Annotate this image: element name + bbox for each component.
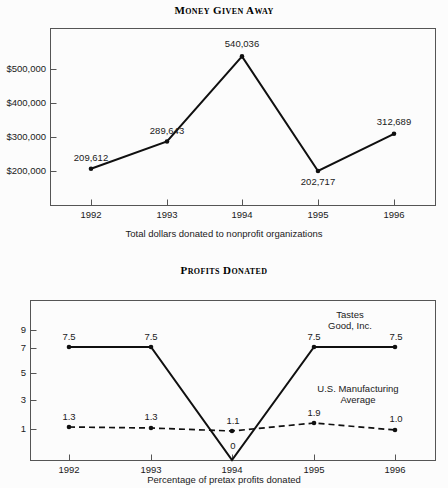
data-point-1992 xyxy=(89,166,94,171)
tg-point-1993 xyxy=(149,345,154,350)
us-label-1992: 1.3 xyxy=(54,411,84,422)
data-label-1992: 209,612 xyxy=(61,152,121,163)
ytick-label-5: 5 xyxy=(8,367,26,378)
xtick-label-1994: 1994 xyxy=(220,209,264,220)
ytick-label-300000: $300,000 xyxy=(0,131,46,142)
xtick-label-1996: 1996 xyxy=(372,209,416,220)
us-point-1995 xyxy=(312,421,317,426)
ytick-label-400000: $400,000 xyxy=(0,97,46,108)
us-label-1995: 1.9 xyxy=(299,407,329,418)
us-label-1993: 1.3 xyxy=(136,411,166,422)
chart-caption-money-given-away: Total dollars donated to nonprofit organ… xyxy=(0,228,448,239)
tg-label-1992: 7.5 xyxy=(54,331,84,342)
tg-point-1992 xyxy=(67,345,72,350)
ytick-label-1: 1 xyxy=(8,423,26,434)
data-label-1994: 540,036 xyxy=(212,38,272,49)
tg-point-1995 xyxy=(312,345,317,350)
us-point-1992 xyxy=(67,425,72,430)
tg-label-1993: 7.5 xyxy=(136,331,166,342)
us-point-1993 xyxy=(149,426,154,431)
data-point-1993 xyxy=(165,139,170,144)
us-label-1994: 1.1 xyxy=(218,415,248,426)
ytick-label-3: 3 xyxy=(8,394,26,405)
tg-label-1995: 7.5 xyxy=(299,331,329,342)
data-label-1996: 312,689 xyxy=(364,116,424,127)
xtick-label-1995: 1995 xyxy=(296,209,340,220)
us-label-1996: 1.0 xyxy=(381,413,411,424)
ytick-label-500000: $500,000 xyxy=(0,63,46,74)
data-point-1995 xyxy=(316,169,321,174)
series-line-money xyxy=(91,56,394,171)
tg-label-1994: 0 xyxy=(218,440,248,451)
us-point-1994 xyxy=(230,429,235,434)
data-point-1996 xyxy=(392,132,397,137)
chart-money-given-away: Money Given Away $500,000 $400,000 $300,… xyxy=(0,0,448,248)
legend-us-average-line1: U.S. Manufacturing xyxy=(293,383,423,394)
xtick-label-1993: 1993 xyxy=(145,209,189,220)
ytick-label-200000: $200,000 xyxy=(0,165,46,176)
data-label-1993: 289,643 xyxy=(137,125,197,136)
data-point-1994 xyxy=(240,54,245,59)
legend-tastes-good-line1: Tastes xyxy=(305,309,395,320)
tg-point-1996 xyxy=(393,345,398,350)
chart-profits-donated: Profits Donated 9 7 5 3 1 1992 1993 xyxy=(0,248,448,488)
legend-us-average-line2: Average xyxy=(293,394,423,405)
ytick-label-7: 7 xyxy=(8,342,26,353)
legend-us-average: U.S. Manufacturing Average xyxy=(293,383,423,405)
legend-tastes-good: Tastes Good, Inc. xyxy=(305,309,395,331)
plot-area-profits-donated xyxy=(0,248,448,488)
us-point-1996 xyxy=(393,428,398,433)
tg-label-1996: 7.5 xyxy=(381,331,411,342)
ytick-label-9: 9 xyxy=(8,324,26,335)
xtick-label-1992: 1992 xyxy=(69,209,113,220)
legend-tastes-good-line2: Good, Inc. xyxy=(305,320,395,331)
data-label-1995: 202,717 xyxy=(288,176,348,187)
chart-caption-profits-donated: Percentage of pretax profits donated xyxy=(0,474,448,485)
